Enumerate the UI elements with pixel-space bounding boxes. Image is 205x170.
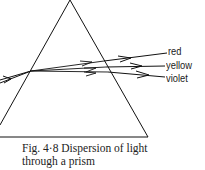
- ray-label-yellow: yellow: [166, 60, 192, 71]
- caption-line-1: Fig. 4·8 Dispersion of light: [22, 142, 202, 155]
- emerging-ray-red: [104, 53, 167, 62]
- emerging-ray-violet: [108, 71, 165, 78]
- ray-label-red: red: [168, 46, 182, 57]
- emerging-ray-yellow: [106, 63, 165, 69]
- refracted-rays: [31, 61, 108, 76]
- figure-caption: Fig. 4·8 Dispersion of light through a p…: [22, 142, 202, 168]
- ray-label-violet: violet: [166, 73, 188, 84]
- caption-line-2: through a prism: [22, 155, 202, 168]
